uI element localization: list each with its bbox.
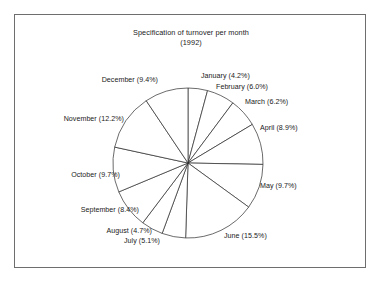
pie-label-september: September (8.4%): [81, 206, 139, 214]
chart-title-line-2: (1992): [180, 38, 202, 47]
pie-chart: Specification of turnover per month (199…: [0, 0, 383, 283]
chart-title-line-1: Specification of turnover per month: [133, 28, 249, 37]
pie-label-february: February (6.0%): [216, 83, 268, 91]
pie-label-july: July (5.1%): [124, 237, 160, 245]
pie-label-december: December (9.4%): [102, 76, 158, 84]
pie-label-august: August (4.7%): [106, 227, 152, 235]
pie-label-october: October (9.7%): [71, 171, 120, 179]
pie-label-may: May (9.7%): [260, 182, 297, 190]
pie-slices-group: [113, 88, 263, 238]
pie-label-november: November (12.2%): [64, 115, 124, 123]
figure-root: Specification of turnover per month (199…: [0, 0, 383, 283]
pie-label-april: April (8.9%): [260, 124, 298, 132]
pie-label-january: January (4.2%): [201, 72, 250, 80]
pie-label-june: June (15.5%): [224, 232, 267, 240]
pie-label-march: March (6.2%): [245, 98, 288, 106]
